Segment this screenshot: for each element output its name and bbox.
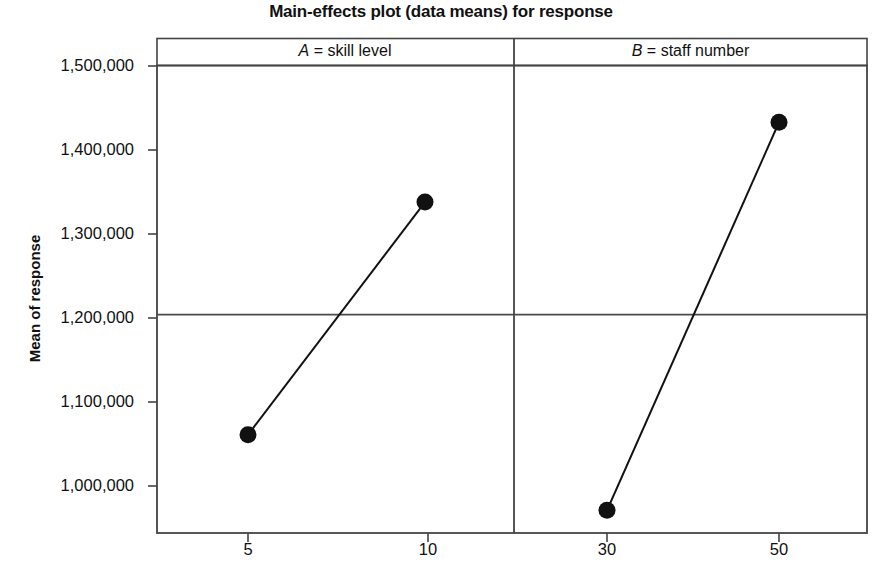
main-effects-chart: Main-effects plot (data means) for respo… (0, 0, 882, 580)
panel-header-frames (157, 39, 867, 66)
plot-frame (157, 66, 867, 534)
x-axis-ticks (248, 533, 779, 542)
series-panel-a (240, 194, 434, 444)
plot-area (0, 0, 882, 580)
y-axis-ticks (148, 66, 157, 486)
series-panel-b (599, 114, 788, 519)
